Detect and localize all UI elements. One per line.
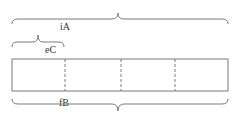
segment-diagram: iA eC fB (0, 0, 237, 124)
bottom-brace (12, 99, 228, 111)
small-brace (12, 35, 64, 47)
top-brace (12, 13, 228, 24)
bar-rectangle (12, 59, 228, 91)
bottom-brace-label: fB (59, 97, 69, 108)
small-brace-label: eC (45, 44, 56, 55)
top-brace-label: iA (60, 21, 71, 32)
